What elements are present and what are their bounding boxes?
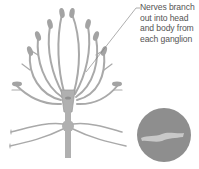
head-ganglion (61, 90, 75, 112)
nerve-cross-section (137, 108, 191, 162)
body-ganglion (62, 120, 74, 132)
annotation-line-2: out into head (140, 13, 199, 24)
annotation-line-4: each ganglion (140, 34, 199, 45)
annotation-line-1: Nerves branch (140, 2, 199, 13)
annotation-line-3: and body from (140, 23, 199, 34)
annotation-label: Nerves branch out into head and body fro… (140, 2, 199, 44)
